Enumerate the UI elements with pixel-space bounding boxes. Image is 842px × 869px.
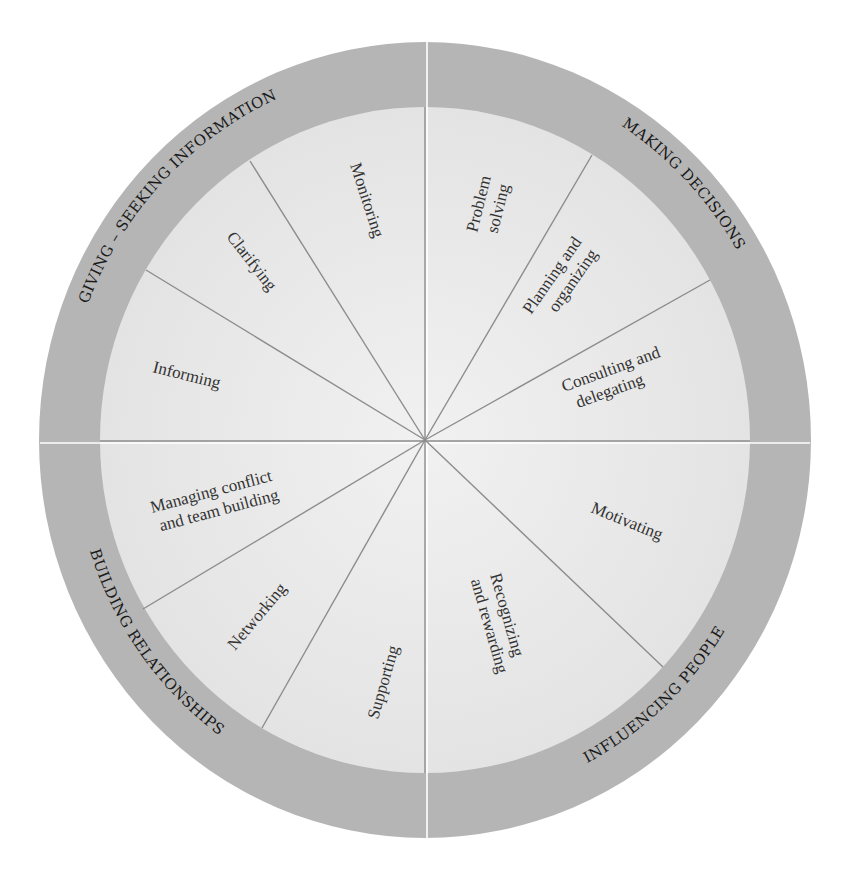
leadership-behavior-wheel: GIVING – SEEKING INFORMATION MAKING DECI… — [0, 0, 842, 869]
